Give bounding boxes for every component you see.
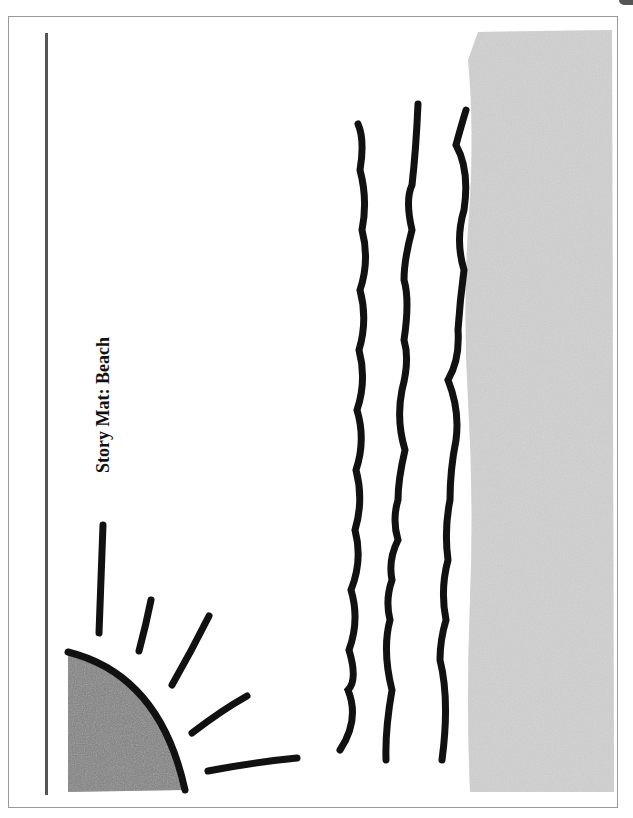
waves: [340, 104, 466, 760]
wave-2: [386, 104, 418, 760]
sand-area: [465, 30, 614, 792]
beach-illustration: [0, 0, 633, 818]
sun-icon: [68, 652, 185, 792]
wave-1: [340, 124, 366, 750]
wave-3: [440, 110, 466, 760]
